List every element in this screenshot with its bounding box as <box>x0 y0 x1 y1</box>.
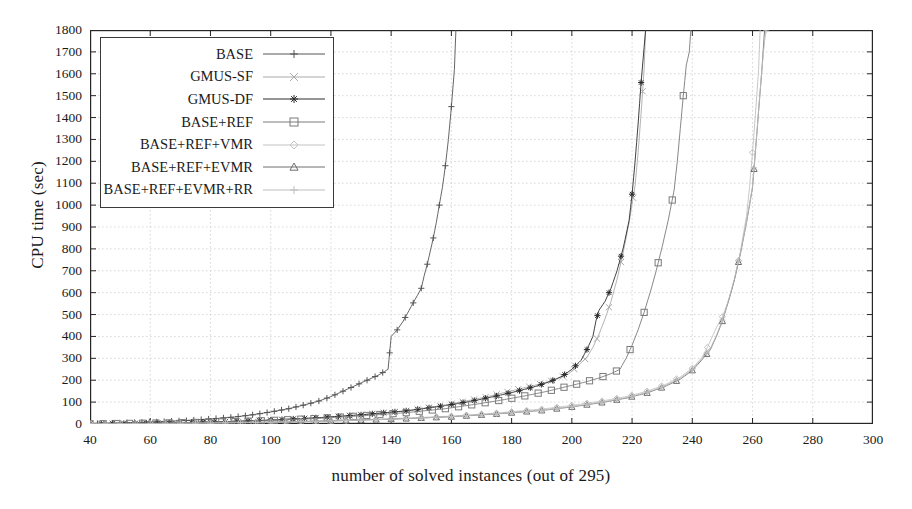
y-tick-label: 1700 <box>36 46 82 58</box>
legend-label: BASE+REF <box>181 114 261 131</box>
legend-marker-star-icon <box>261 90 327 108</box>
y-tick-label: 1500 <box>36 90 82 102</box>
x-tick-label: 160 <box>426 432 476 448</box>
x-tick-label: 140 <box>366 432 416 448</box>
legend-entry[interactable]: BASE <box>107 43 327 66</box>
x-tick-label: 300 <box>848 432 898 448</box>
legend-entry[interactable]: BASE+REF+VMR <box>107 133 327 156</box>
x-tick-label: 40 <box>65 432 115 448</box>
legend-marker-square-icon <box>261 113 327 131</box>
x-tick-label: 80 <box>185 432 235 448</box>
y-tick-label: 1200 <box>36 155 82 167</box>
legend-marker-triangle-icon <box>261 158 327 176</box>
y-tick-label: 1800 <box>36 24 82 36</box>
y-tick-label: 0 <box>36 418 82 430</box>
legend-label: BASE+REF+VMR <box>140 136 261 153</box>
chart-legend: BASEGMUS-SFGMUS-DFBASE+REFBASE+REF+VMRBA… <box>100 37 334 208</box>
x-tick-label: 240 <box>667 432 717 448</box>
legend-entry[interactable]: GMUS-DF <box>107 88 327 111</box>
x-tick-label: 180 <box>487 432 537 448</box>
y-tick-label: 1300 <box>36 133 82 145</box>
legend-label: GMUS-SF <box>190 68 261 85</box>
y-tick-label: 500 <box>36 309 82 321</box>
y-tick-label: 300 <box>36 352 82 364</box>
legend-label: BASE <box>216 46 261 63</box>
y-tick-label: 1400 <box>36 112 82 124</box>
y-tick-label: 1000 <box>36 199 82 211</box>
chart-figure: CPU time (sec) 0100200300400500600700800… <box>0 0 912 509</box>
legend-label: GMUS-DF <box>188 91 261 108</box>
y-tick-label: 400 <box>36 330 82 342</box>
y-tick-label: 900 <box>36 221 82 233</box>
legend-label: BASE+REF+EVMR+RR <box>104 181 261 198</box>
legend-marker-plus-icon <box>261 45 327 63</box>
x-axis-tick-labels: 406080100120140160180200220240260280300 <box>0 432 912 454</box>
y-tick-label: 100 <box>36 396 82 408</box>
x-tick-label: 200 <box>547 432 597 448</box>
y-tick-label: 200 <box>36 374 82 386</box>
y-tick-label: 1600 <box>36 68 82 80</box>
x-tick-label: 120 <box>306 432 356 448</box>
x-tick-label: 220 <box>607 432 657 448</box>
legend-label: BASE+REF+EVMR <box>131 159 261 176</box>
x-tick-label: 100 <box>246 432 296 448</box>
legend-marker-diamond-icon <box>261 136 327 154</box>
x-tick-label: 260 <box>728 432 778 448</box>
x-tick-label: 280 <box>788 432 838 448</box>
legend-entry[interactable]: BASE+REF+EVMR+RR <box>107 179 327 202</box>
legend-entry[interactable]: GMUS-SF <box>107 66 327 89</box>
y-tick-label: 800 <box>36 243 82 255</box>
legend-entry[interactable]: BASE+REF <box>107 111 327 134</box>
y-tick-label: 600 <box>36 287 82 299</box>
y-tick-label: 700 <box>36 265 82 277</box>
legend-marker-plus-icon <box>261 181 327 199</box>
y-tick-label: 1100 <box>36 177 82 189</box>
legend-marker-x-icon <box>261 68 327 86</box>
x-axis-label: number of solved instances (out of 295) <box>0 466 912 486</box>
legend-entry[interactable]: BASE+REF+EVMR <box>107 156 327 179</box>
x-tick-label: 60 <box>125 432 175 448</box>
